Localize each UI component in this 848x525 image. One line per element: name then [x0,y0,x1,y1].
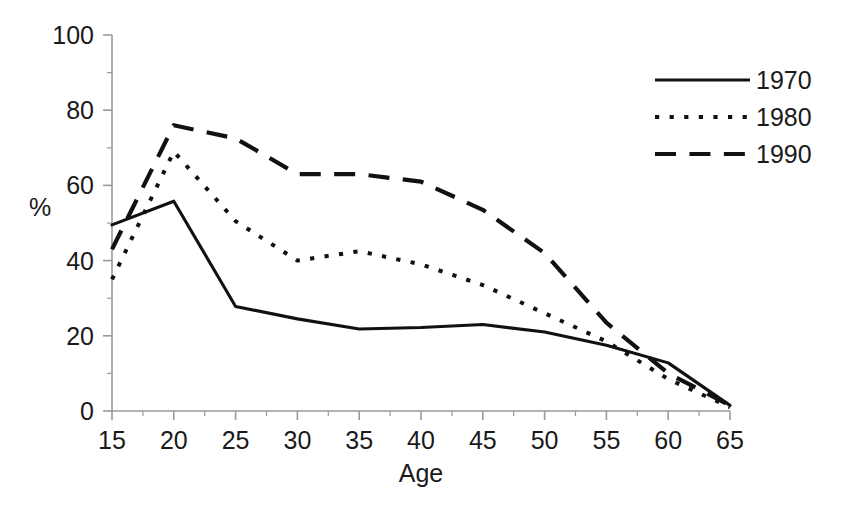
series-line-1970 [112,201,730,405]
chart-figure: 0204060801001520253035404550556065%Age 1… [0,0,848,525]
x-axis-tick-label: 55 [592,426,620,454]
x-axis-tick-label: 50 [531,426,559,454]
series-line-1980 [112,152,730,408]
y-axis-tick-label: 80 [66,96,94,124]
y-axis-tick-label: 100 [52,21,94,49]
x-axis-tick-label: 25 [222,426,250,454]
legend-label-1970: 1970 [756,66,812,94]
x-axis-title: Age [399,459,443,487]
legend-label-1990: 1990 [756,140,812,168]
x-axis-tick-label: 35 [345,426,373,454]
y-axis-tick-label: 0 [80,397,94,425]
axes-layer [103,35,730,420]
x-axis-tick-label: 65 [716,426,744,454]
x-axis-tick-label: 20 [160,426,188,454]
x-axis-tick-label: 30 [283,426,311,454]
labels-layer: 0204060801001520253035404550556065%Age [29,21,744,487]
line-chart-canvas: 0204060801001520253035404550556065%Age 1… [0,0,848,525]
legend-layer: 197019801990 [655,66,812,168]
y-axis-title: % [29,193,51,221]
x-axis-tick-label: 40 [407,426,435,454]
legend-label-1980: 1980 [756,103,812,131]
y-axis-tick-label: 20 [66,322,94,350]
x-axis-tick-label: 60 [654,426,682,454]
x-axis-tick-label: 45 [469,426,497,454]
series-line-1990 [112,125,730,405]
series-layer [112,125,730,407]
y-axis-tick-label: 60 [66,171,94,199]
x-axis-tick-label: 15 [98,426,126,454]
y-axis-tick-label: 40 [66,247,94,275]
